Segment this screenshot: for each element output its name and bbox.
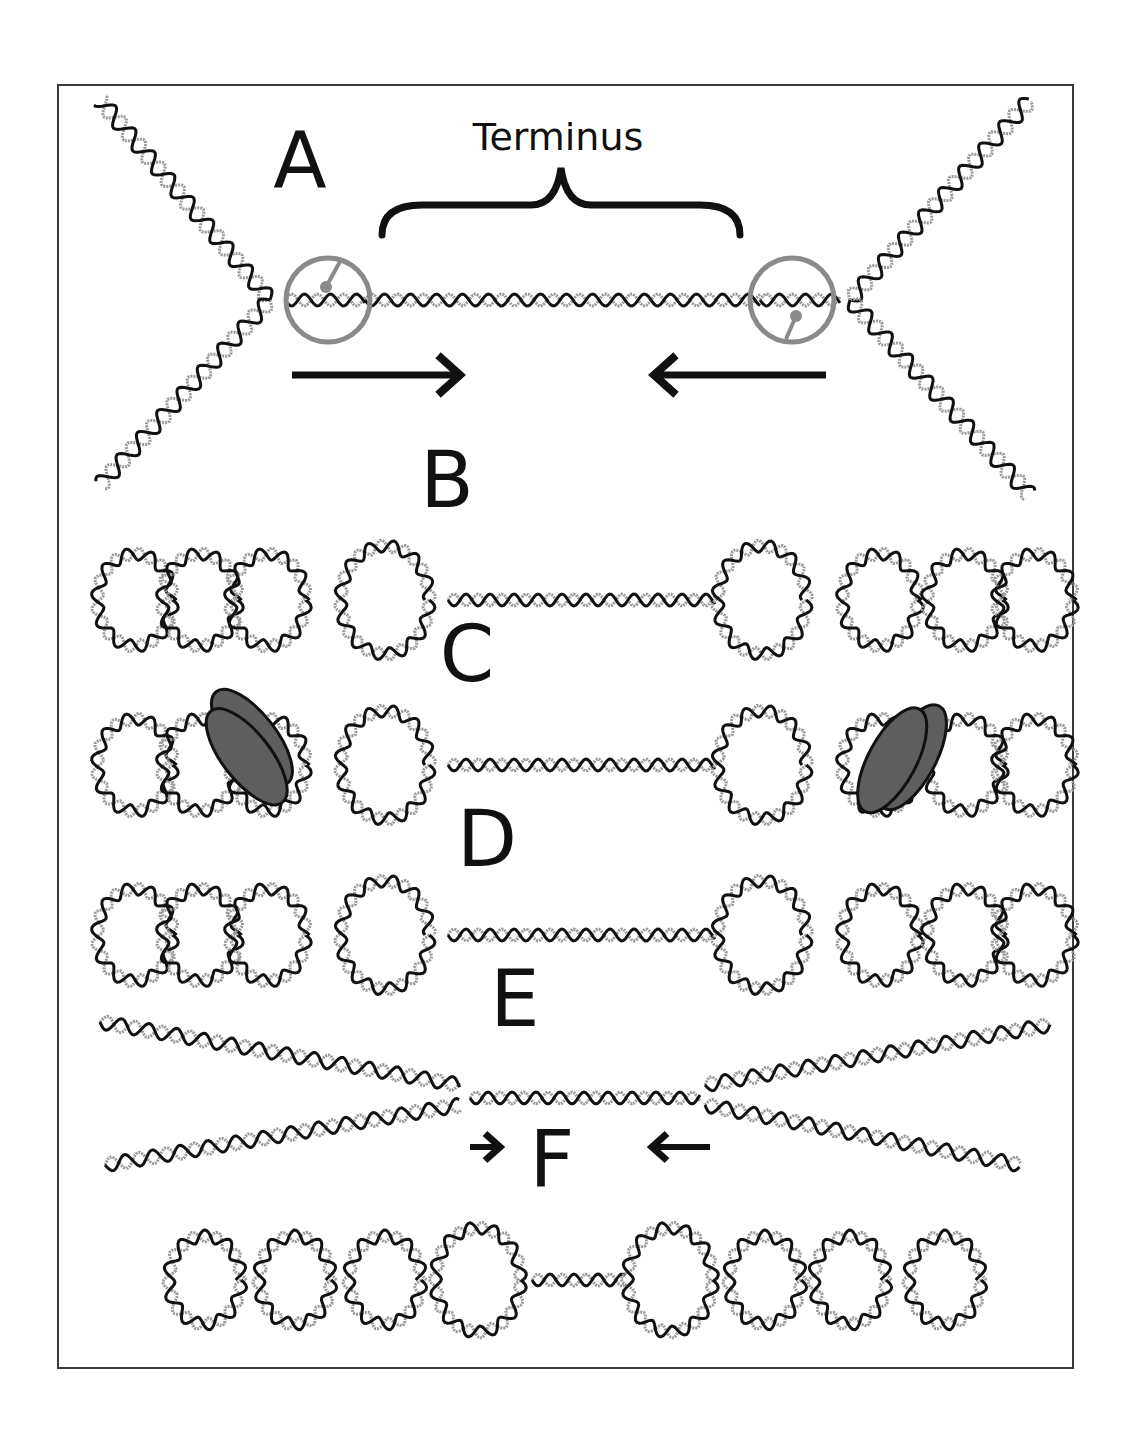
- diagram-canvas: [0, 0, 1130, 1447]
- dna-loop: [429, 1222, 526, 1338]
- dna-loop: [225, 883, 312, 986]
- dna-loop: [225, 548, 312, 651]
- converge-arrow-left: [652, 1134, 710, 1161]
- dna-loop: [253, 1230, 337, 1330]
- dna-loop: [343, 1230, 427, 1330]
- panel-label-a: A: [273, 122, 326, 200]
- fork-arm-left-1: [96, 299, 272, 489]
- dna-loop: [712, 540, 812, 659]
- protein-complex-left: [185, 677, 314, 817]
- crossing-arm-2: [705, 1019, 1050, 1090]
- panel-label-d: D: [457, 800, 517, 878]
- crossing-arm-1: [105, 1099, 461, 1171]
- dna-loop: [712, 875, 812, 994]
- dna-loop: [837, 883, 924, 986]
- terminus-duplex-a: [365, 294, 760, 306]
- dna-loop: [92, 548, 179, 651]
- fork-duplex-right: [760, 294, 840, 306]
- dna-loop: [92, 713, 179, 816]
- dna-loop: [335, 540, 435, 659]
- panel-label-f: F: [530, 1120, 575, 1198]
- dna-loop: [621, 1222, 718, 1338]
- row-b: [92, 540, 1078, 659]
- row-e: [100, 1016, 1050, 1170]
- terminus-duplex: [532, 1274, 625, 1286]
- fork-duplex-left: [285, 294, 365, 306]
- terminus-duplex: [448, 594, 715, 606]
- fork-arm-right-0: [848, 98, 1032, 301]
- terminus-duplex: [448, 759, 715, 771]
- crossing-arm-0: [100, 1016, 460, 1090]
- dna-loop: [712, 705, 812, 824]
- row-d: [92, 875, 1078, 994]
- dna-loop: [723, 1230, 807, 1330]
- fork-arm-right-1: [848, 299, 1035, 500]
- converge-arrow-right: [470, 1134, 500, 1161]
- terminus-duplex: [448, 929, 715, 941]
- dna-loop: [903, 1230, 987, 1330]
- dna-loop: [163, 1230, 247, 1330]
- fork-arrow-left: [654, 355, 826, 395]
- terminus-duplex-e: [470, 1092, 700, 1104]
- panel-label-c: C: [440, 615, 494, 693]
- dna-loop: [92, 883, 179, 986]
- row-f: [163, 1222, 987, 1338]
- replisome-right: [750, 258, 834, 342]
- dna-loop: [837, 548, 924, 651]
- panel-label-e: E: [490, 960, 539, 1038]
- crossing-arm-3: [705, 1099, 1020, 1170]
- dna-loop: [335, 705, 435, 824]
- dna-loop: [808, 1230, 892, 1330]
- direction-arrows: [292, 355, 826, 1160]
- fork-arm-left-0: [94, 95, 272, 301]
- panel-label-b: B: [420, 441, 474, 519]
- dna-loop: [335, 875, 435, 994]
- terminus-brace: [382, 168, 740, 235]
- terminus-label: Terminus: [473, 118, 644, 156]
- fork-arrow-right: [292, 355, 460, 395]
